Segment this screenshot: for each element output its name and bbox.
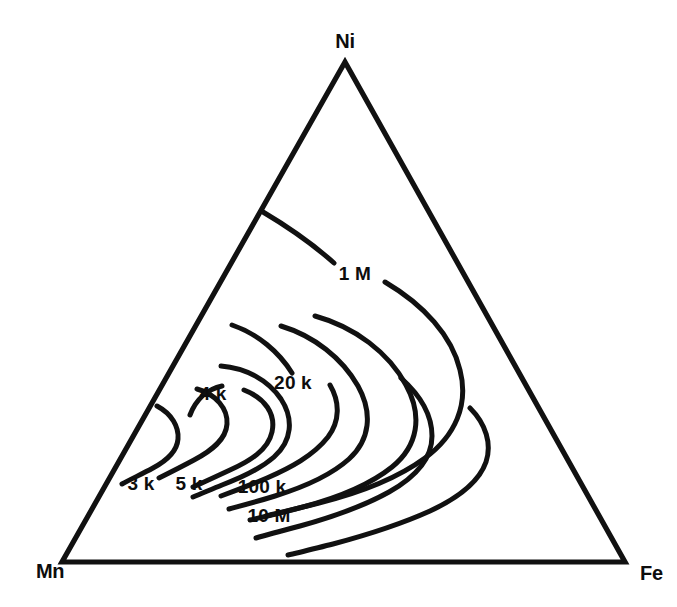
ternary-diagram: Ni Mn Fe 1 M 20 k 4 k 3 k 5 k 100 k 10 M bbox=[0, 0, 677, 607]
contour-label-100k: 100 k bbox=[238, 476, 287, 497]
contour-label-1m: 1 M bbox=[339, 263, 371, 284]
contour-label-10m: 10 M bbox=[247, 505, 290, 526]
vertex-label-ni: Ni bbox=[335, 30, 354, 52]
vertex-label-fe: Fe bbox=[640, 562, 663, 584]
contour-label-20k: 20 k bbox=[274, 372, 312, 393]
vertex-label-mn: Mn bbox=[36, 560, 64, 582]
contour-line-1m-upper bbox=[263, 212, 334, 263]
contour-line-4k-lower bbox=[193, 390, 273, 487]
contour-line-20k-upper bbox=[232, 325, 292, 373]
contour-label-5k: 5 k bbox=[175, 473, 202, 494]
contour-label-3k: 3 k bbox=[127, 473, 154, 494]
ternary-plot-svg: Ni Mn Fe 1 M 20 k 4 k 3 k 5 k 100 k 10 M bbox=[0, 0, 677, 607]
contour-label-4k: 4 k bbox=[199, 383, 226, 404]
